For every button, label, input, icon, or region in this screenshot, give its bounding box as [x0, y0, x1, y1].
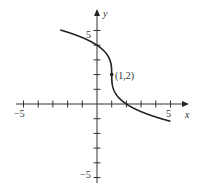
y-axis-label: y — [102, 8, 108, 19]
chart: x y −5 5 5 −5 (1,2) — [0, 0, 201, 192]
x-axis-label: x — [184, 109, 190, 120]
y-max-label: 5 — [86, 29, 91, 40]
x-min-label: −5 — [14, 108, 25, 119]
y-axis-arrow-icon — [94, 9, 100, 16]
x-axis-arrow-icon — [182, 101, 189, 107]
axes — [16, 12, 185, 183]
y-min-label: −5 — [80, 169, 91, 180]
x-max-label: 5 — [166, 108, 171, 119]
point-marker — [110, 73, 114, 77]
point-label: (1,2) — [115, 70, 134, 82]
